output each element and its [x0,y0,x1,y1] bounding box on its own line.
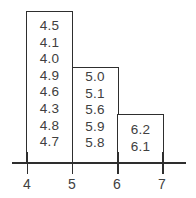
data-value: 5.0 [85,69,105,86]
tick-mark [117,152,119,174]
data-value: 4.9 [40,68,60,85]
tick-label: 4 [17,176,37,192]
data-value: 5.1 [85,86,105,103]
bin-values: 5.0 5.1 5.6 5.9 5.8 [73,69,118,152]
data-value: 5.8 [85,135,105,152]
bin-box-5-6: 5.0 5.1 5.6 5.9 5.8 [72,67,119,164]
data-value: 4.0 [40,51,60,68]
data-value: 5.6 [85,102,105,119]
data-value: 4.3 [40,101,60,118]
tick-label: 5 [62,176,82,192]
bin-box-6-7: 6.2 6.1 [117,114,164,164]
tick-label: 6 [107,176,127,192]
tick-mark [72,152,74,174]
data-value: 5.9 [85,119,105,136]
data-value: 6.1 [131,139,151,156]
data-value: 6.2 [131,122,151,139]
data-value: 4.7 [40,134,60,151]
tick-mark [27,152,29,174]
bin-values: 4.5 4.1 4.0 4.9 4.6 4.3 4.8 4.7 [27,18,72,151]
x-axis-line [12,162,186,164]
data-value: 4.5 [40,18,60,35]
tick-mark [162,152,164,174]
bin-box-4-5: 4.5 4.1 4.0 4.9 4.6 4.3 4.8 4.7 [26,11,73,164]
bin-values: 6.2 6.1 [118,122,163,155]
data-value: 4.1 [40,35,60,52]
tick-label: 7 [152,176,172,192]
data-value: 4.8 [40,118,60,135]
data-value: 4.6 [40,84,60,101]
